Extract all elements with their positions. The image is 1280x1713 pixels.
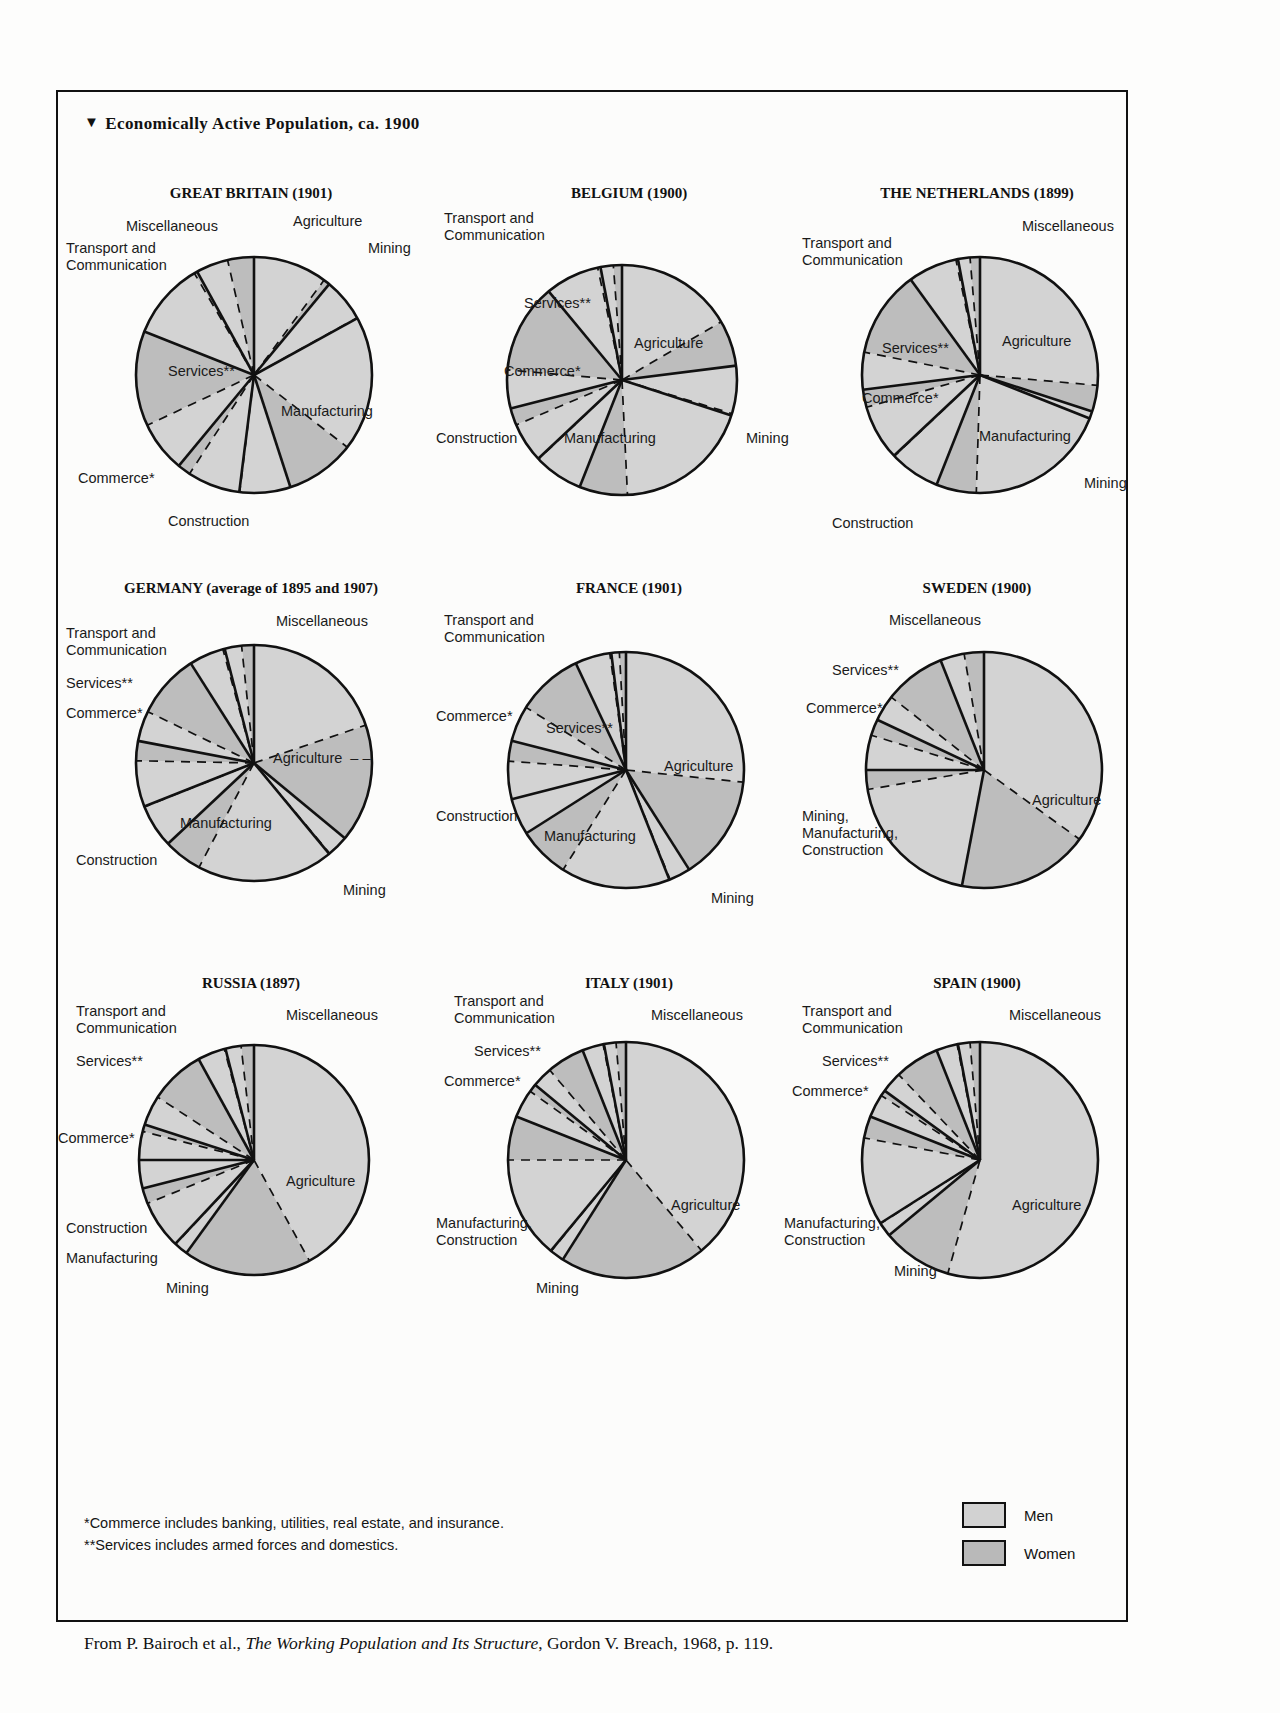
pie-slice-label: Agriculture bbox=[664, 758, 733, 775]
pie-sweden[interactable]: MiscellaneousServices**Commerce*Agricult… bbox=[784, 580, 1170, 970]
chart-row-3: RUSSIA (1897) MiscellaneousTransport and… bbox=[58, 975, 1218, 1370]
pie-slice-label: Mining bbox=[368, 240, 411, 257]
pie-slice-label: Agriculture bbox=[671, 1197, 740, 1214]
pie-slice[interactable] bbox=[980, 257, 1098, 385]
pie-slice-label: Manufacturing bbox=[979, 428, 1071, 445]
pie-slice-label: Services** bbox=[882, 340, 949, 357]
pie-slice-label: Transport and Communication bbox=[66, 625, 167, 659]
pie-slice-label: Agriculture bbox=[1012, 1197, 1081, 1214]
pie-slice-label: Agriculture bbox=[634, 335, 703, 352]
pie-slice-label: Services** bbox=[76, 1053, 143, 1070]
pie-slice-label: Transport and Communication bbox=[802, 235, 903, 269]
pie-germany[interactable]: MiscellaneousTransport and Communication… bbox=[58, 580, 444, 970]
pie-slice-label: Miscellaneous bbox=[889, 612, 981, 629]
pie-slice-label: Transport and Communication bbox=[66, 240, 167, 274]
pie-slice-label: Services** bbox=[66, 675, 133, 692]
pie-slice-label: Agriculture bbox=[293, 213, 362, 230]
pie-russia[interactable]: MiscellaneousTransport and Communication… bbox=[58, 975, 444, 1365]
pie-slice-label: Services** bbox=[832, 662, 899, 679]
pie-slice-label: Construction bbox=[168, 513, 249, 530]
pie-slice-label: Agriculture bbox=[1002, 333, 1071, 350]
source-title: The Working Population and Its Structure bbox=[245, 1633, 538, 1653]
legend: Men Women bbox=[962, 1502, 1075, 1578]
pie-slice-label: Miscellaneous bbox=[126, 218, 218, 235]
figure-title-text: Economically Active Population, ca. 1900 bbox=[105, 114, 419, 133]
chart-row-2: GERMANY (average of 1895 and 1907) Misce… bbox=[58, 580, 1218, 975]
legend-label-men: Men bbox=[1024, 1507, 1053, 1524]
pie-slice-label: Construction bbox=[832, 515, 913, 532]
chart-great-britain: GREAT BRITAIN (1901) MiscellaneousTransp… bbox=[58, 185, 444, 575]
pie-svg bbox=[436, 975, 822, 1365]
pie-slice-label: Services** bbox=[524, 295, 591, 312]
pie-italy[interactable]: Transport and CommunicationMiscellaneous… bbox=[436, 975, 822, 1365]
pie-belgium[interactable]: Transport and CommunicationServices**Agr… bbox=[436, 185, 822, 575]
pie-france[interactable]: Transport and CommunicationCommerce*Serv… bbox=[436, 580, 822, 970]
pie-slice-label: Construction bbox=[436, 808, 517, 825]
chart-row-1: GREAT BRITAIN (1901) MiscellaneousTransp… bbox=[58, 185, 1218, 580]
footnote-commerce: *Commerce includes banking, utilities, r… bbox=[84, 1512, 504, 1534]
legend-swatch-women bbox=[962, 1540, 1006, 1566]
figure-title: ▼Economically Active Population, ca. 190… bbox=[84, 110, 420, 135]
pie-slice-label: Commerce* bbox=[862, 390, 939, 407]
pie-slice-label: Mining bbox=[343, 882, 386, 899]
pie-slice-label: Agriculture bbox=[286, 1173, 355, 1190]
pie-svg bbox=[784, 580, 1170, 970]
triangle-marker: ▼ bbox=[84, 114, 99, 130]
source-prefix: From P. Bairoch et al., bbox=[84, 1633, 245, 1653]
pie-great-britain[interactable]: MiscellaneousTransport and Communication… bbox=[58, 185, 444, 575]
pie-slice-label: Mining bbox=[536, 1280, 579, 1297]
chart-italy: ITALY (1901) Transport and Communication… bbox=[436, 975, 822, 1365]
pie-slice-label: Construction bbox=[436, 430, 517, 447]
pie-slice-label: Construction bbox=[66, 1220, 147, 1237]
legend-swatch-men bbox=[962, 1502, 1006, 1528]
chart-germany: GERMANY (average of 1895 and 1907) Misce… bbox=[58, 580, 444, 970]
footnote-services: **Services includes armed forces and dom… bbox=[84, 1534, 504, 1556]
pie-slice-label: Commerce* bbox=[78, 470, 155, 487]
pie-slice-label: Miscellaneous bbox=[276, 613, 368, 630]
pie-slice-label: Services** bbox=[546, 720, 613, 737]
pie-slice-label: Commerce* bbox=[806, 700, 883, 717]
chart-russia: RUSSIA (1897) MiscellaneousTransport and… bbox=[58, 975, 444, 1365]
pie-slice-label: Transport and Communication bbox=[76, 1003, 177, 1037]
pie-slice-label: Miscellaneous bbox=[651, 1007, 743, 1024]
pie-slice-label: Mining bbox=[166, 1280, 209, 1297]
chart-netherlands: THE NETHERLANDS (1899) MiscellaneousTran… bbox=[784, 185, 1170, 575]
pie-slice-label: Manufacturing bbox=[281, 403, 373, 420]
chart-sweden: SWEDEN (1900) MiscellaneousServices**Com… bbox=[784, 580, 1170, 970]
legend-label-women: Women bbox=[1024, 1545, 1075, 1562]
pie-slice-label: Miscellaneous bbox=[1022, 218, 1114, 235]
pie-slice-label: Commerce* bbox=[58, 1130, 135, 1147]
pie-slice-label: Commerce* bbox=[436, 708, 513, 725]
chart-belgium: BELGIUM (1900) Transport and Communicati… bbox=[436, 185, 822, 575]
pie-slice-label: Manufacturing bbox=[180, 815, 272, 832]
pie-slice-label: Transport and Communication bbox=[444, 612, 545, 646]
pie-slice-label: Commerce* bbox=[444, 1073, 521, 1090]
pie-slice-label: Transport and Communication bbox=[454, 993, 555, 1027]
pie-slice-label: Manufacturing bbox=[66, 1250, 158, 1267]
pie-slice-label: Manufacturing bbox=[564, 430, 656, 447]
pie-slice-label: Transport and Communication bbox=[802, 1003, 903, 1037]
pie-slice-label: Manufacturing, Construction bbox=[784, 1215, 880, 1249]
pie-slice-label: Services** bbox=[822, 1053, 889, 1070]
source-suffix: , Gordon V. Breach, 1968, p. 119. bbox=[538, 1633, 773, 1653]
pie-slice-label: Mining bbox=[1084, 475, 1127, 492]
pie-slice-label: Services** bbox=[168, 363, 235, 380]
pie-slice-label: Construction bbox=[76, 852, 157, 869]
chart-france: FRANCE (1901) Transport and Communicatio… bbox=[436, 580, 822, 970]
legend-item-women: Women bbox=[962, 1540, 1075, 1566]
legend-item-men: Men bbox=[962, 1502, 1075, 1528]
pie-slice-label: Agriculture bbox=[1032, 792, 1101, 809]
pie-slice-label: Manufacturing bbox=[544, 828, 636, 845]
pie-slice-label: Miscellaneous bbox=[1009, 1007, 1101, 1024]
pie-slice-label: Agriculture – – bbox=[273, 750, 371, 767]
pie-slice-label: Manufacturing, Construction bbox=[436, 1215, 532, 1249]
figure-page: ▼Economically Active Population, ca. 190… bbox=[0, 0, 1280, 1713]
pie-slice-label: Mining, Manufacturing, Construction bbox=[802, 808, 898, 859]
pie-slice-label: Mining bbox=[711, 890, 754, 907]
pie-spain[interactable]: Transport and CommunicationMiscellaneous… bbox=[784, 975, 1170, 1365]
pie-slice-label: Services** bbox=[474, 1043, 541, 1060]
pie-slice-label: Commerce* bbox=[792, 1083, 869, 1100]
pie-netherlands[interactable]: MiscellaneousTransport and Communication… bbox=[784, 185, 1170, 575]
charts-grid: GREAT BRITAIN (1901) MiscellaneousTransp… bbox=[58, 185, 1218, 1370]
pie-slice-label: Miscellaneous bbox=[286, 1007, 378, 1024]
